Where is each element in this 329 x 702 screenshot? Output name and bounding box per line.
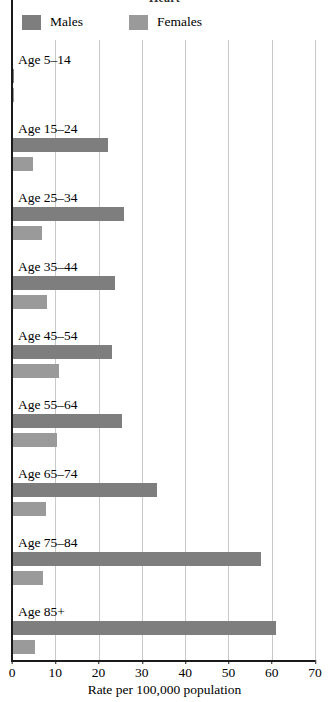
bar-group: Age 65–74 <box>12 454 315 523</box>
bar-group: Age 45–54 <box>12 316 315 385</box>
bar-males <box>12 621 276 635</box>
bar-chart: Heart Males Females Age 5–14Age 15–24Age… <box>0 0 329 702</box>
bar-females <box>12 502 46 516</box>
x-tick-label: 60 <box>265 665 279 681</box>
bar-males <box>12 207 124 221</box>
legend-label-males: Males <box>50 15 83 29</box>
x-tick-label: 30 <box>135 665 149 681</box>
x-tick-label: 40 <box>178 665 192 681</box>
bar-males <box>12 414 122 428</box>
bar-females <box>12 640 35 654</box>
bar-group: Age 15–24 <box>12 109 315 178</box>
plot-area: Age 5–14Age 15–24Age 25–34Age 35–44Age 4… <box>12 40 315 661</box>
x-tick-mark <box>12 660 13 664</box>
legend-label-females: Females <box>157 15 202 29</box>
x-axis-label: Rate per 100,000 population <box>0 682 329 698</box>
bar-males <box>12 483 157 497</box>
legend-swatch-males-icon <box>22 15 41 30</box>
chart-legend: Males Females <box>22 12 202 32</box>
chart-title: Heart <box>0 0 329 6</box>
bar-groups: Age 5–14Age 15–24Age 25–34Age 35–44Age 4… <box>12 40 315 661</box>
legend-swatch-females-icon <box>129 15 148 30</box>
x-tick-mark <box>315 660 316 664</box>
x-tick-mark <box>185 660 186 664</box>
bar-females <box>12 157 33 171</box>
bar-group-label: Age 25–34 <box>18 190 78 205</box>
bar-males <box>12 138 108 152</box>
x-tick-label: 0 <box>9 665 16 681</box>
bar-group-label: Age 55–64 <box>18 397 78 412</box>
x-tick-mark <box>99 660 100 664</box>
x-tick-label: 10 <box>49 665 63 681</box>
bar-group: Age 55–64 <box>12 385 315 454</box>
x-tick-mark <box>55 660 56 664</box>
bar-females <box>12 226 42 240</box>
bar-group: Age 35–44 <box>12 247 315 316</box>
legend-item-males: Males <box>22 15 83 30</box>
bar-group-label: Age 75–84 <box>18 535 78 550</box>
bar-group-label: Age 65–74 <box>18 466 78 481</box>
x-tick-mark <box>228 660 229 664</box>
x-tick-label: 20 <box>92 665 106 681</box>
bar-females <box>12 433 57 447</box>
bar-females <box>12 295 47 309</box>
bar-group: Age 75–84 <box>12 523 315 592</box>
bar-group-label: Age 45–54 <box>18 328 78 343</box>
bar-group-label: Age 85+ <box>18 604 65 619</box>
bar-males <box>12 552 261 566</box>
bar-males <box>12 345 112 359</box>
gridline <box>315 40 316 661</box>
bar-females <box>12 571 43 585</box>
bar-females <box>12 364 59 378</box>
x-tick-label: 50 <box>222 665 236 681</box>
bar-males <box>12 276 115 290</box>
x-tick-mark <box>142 660 143 664</box>
x-tick-mark <box>272 660 273 664</box>
bar-group-label: Age 15–24 <box>18 121 78 136</box>
y-axis-line <box>11 0 13 661</box>
legend-item-females: Females <box>129 15 202 30</box>
bar-group-label: Age 35–44 <box>18 259 78 274</box>
bar-group: Age 5–14 <box>12 40 315 109</box>
bar-group: Age 25–34 <box>12 178 315 247</box>
x-tick-label: 70 <box>308 665 322 681</box>
bar-group: Age 85+ <box>12 592 315 661</box>
x-axis-line <box>11 660 315 662</box>
x-axis-ticks: 010203040506070 <box>12 665 315 683</box>
bar-group-label: Age 5–14 <box>18 52 71 67</box>
